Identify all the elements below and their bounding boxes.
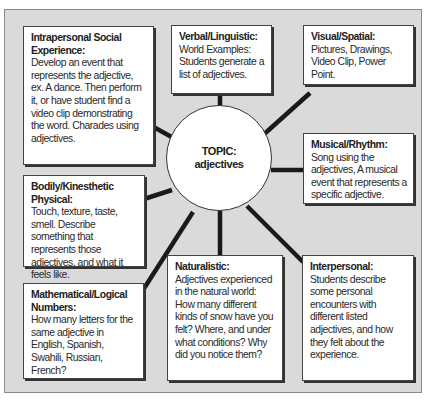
box-visual: Visual/Spatial: Pictures, Drawings, Vide… [303, 25, 414, 85]
box-body: Song using the adjectives, A musical eve… [311, 152, 407, 202]
box-interpersonal: Interpersonal: Students describe some pe… [302, 255, 414, 381]
box-title: Mathematical/Logical Numbers: [31, 289, 137, 314]
box-title: Visual/Spatial: [311, 31, 407, 44]
box-bodily: Bodily/Kinesthetic Physical: Touch, text… [23, 175, 145, 267]
box-body: How many letters for the same adjective … [31, 314, 137, 377]
box-intrapersonal: Intrapersonal Social Experience: Develop… [23, 26, 154, 165]
box-body: Students describe some personal encounte… [310, 274, 407, 362]
box-title: Intrapersonal Social Experience: [31, 32, 147, 57]
box-mathematical: Mathematical/Logical Numbers: How many l… [23, 283, 144, 379]
topic-label: TOPIC: [202, 145, 237, 158]
spoke-bodily [144, 190, 172, 199]
box-naturalistic: Naturalistic: Adjectives experienced in … [167, 255, 283, 381]
box-body: Adjectives experienced in the natural wo… [175, 274, 276, 362]
spoke-interpersonal [247, 206, 303, 262]
box-musical: Musical/Rhythm: Song using the adjective… [303, 133, 414, 204]
box-body: Develop an event that represents the adj… [31, 57, 147, 145]
box-title: Musical/Rhythm: [311, 139, 407, 152]
box-body: World Examples: Students generate a list… [179, 44, 265, 82]
box-title: Interpersonal: [310, 261, 407, 274]
box-title: Verbal/Linguistic: [179, 31, 265, 44]
topic-circle: TOPIC: adjectives [166, 105, 272, 211]
box-verbal: Verbal/Linguistic: World Examples: Stude… [171, 25, 272, 94]
spoke-visual [262, 93, 310, 136]
box-body: Touch, texture, taste, smell. Describe s… [31, 206, 138, 282]
topic-value: adjectives [194, 158, 243, 171]
box-title: Naturalistic: [175, 261, 276, 274]
box-body: Pictures, Drawings, Video Clip, Power Po… [311, 44, 407, 82]
box-title: Bodily/Kinesthetic Physical: [31, 181, 138, 206]
